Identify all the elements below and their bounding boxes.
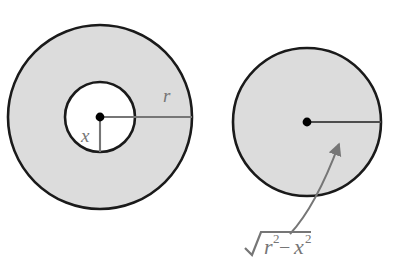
radical-base-r: r <box>264 234 273 259</box>
left-annulus-diagram: r x <box>8 25 192 209</box>
center-dot-right <box>303 118 312 127</box>
radical-exponent-x: 2 <box>305 231 312 246</box>
sqrt-expression-label: r 2 − x 2 <box>245 231 312 259</box>
center-dot-left <box>96 113 105 122</box>
inner-radius-label: x <box>80 125 90 146</box>
outer-radius-label: r <box>163 85 171 106</box>
radical-operator-minus: − <box>279 236 290 258</box>
right-disk-diagram: r 2 − x 2 <box>233 48 381 259</box>
figure-root: r x r 2 − x 2 <box>0 0 417 268</box>
geometry-figure: r x r 2 − x 2 <box>0 0 417 268</box>
radical-base-x: x <box>293 234 304 259</box>
